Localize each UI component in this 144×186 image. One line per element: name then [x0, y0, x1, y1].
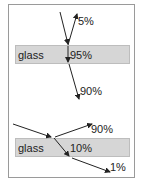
transmitted-percent-top: 95%: [70, 49, 92, 61]
reflected-percent-top: 5%: [78, 15, 94, 27]
transmitted-ray-bottom: [54, 138, 69, 156]
reflected-ray-top: [68, 14, 77, 45]
exit-ray-top: [69, 64, 79, 99]
transmitted-percent-bottom: 10%: [70, 142, 92, 154]
ray-arrows: [0, 0, 144, 186]
reflected-percent-bottom: 90%: [91, 123, 113, 135]
reflected-ray-bottom: [55, 124, 92, 137]
exit-percent-top: 90%: [80, 85, 102, 97]
exit-percent-bottom: 1%: [110, 161, 126, 173]
incident-ray-top: [60, 12, 68, 44]
incident-ray-bottom: [13, 124, 51, 137]
exit-ray-bottom: [72, 158, 110, 172]
